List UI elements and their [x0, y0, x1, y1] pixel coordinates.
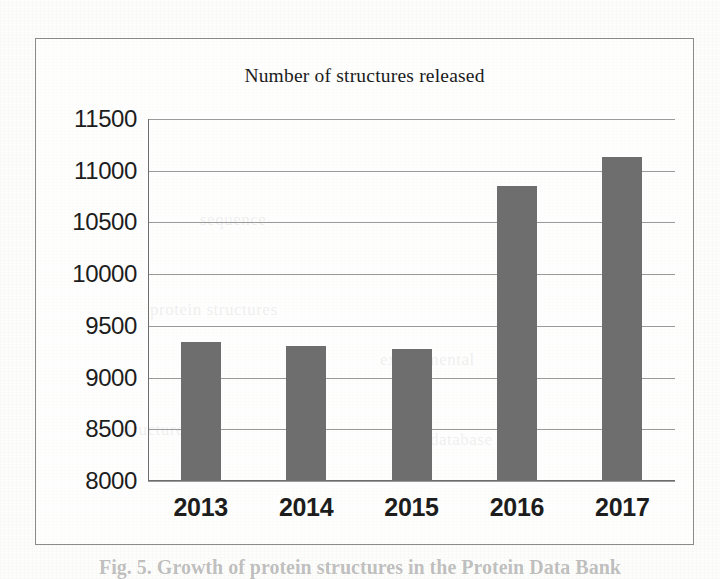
chart-frame: Number of structures released 1150011000… — [35, 38, 694, 545]
bar — [392, 349, 432, 481]
gridline — [148, 274, 675, 275]
gridline — [148, 326, 675, 327]
x-axis-tick-label: 2014 — [279, 493, 333, 522]
y-axis-tick-label: 8000 — [85, 467, 137, 495]
bar — [602, 157, 642, 481]
y-axis-tick-label: 10000 — [72, 260, 137, 288]
figure-page: sequenceprotein structuresexperimentalst… — [0, 0, 720, 579]
gridline — [148, 119, 675, 120]
y-axis-tick-label: 8500 — [85, 415, 137, 443]
gridline — [148, 171, 675, 172]
figure-caption: Fig. 5. Growth of protein structures in … — [0, 556, 720, 579]
y-axis-tick-label: 9500 — [85, 312, 137, 340]
y-axis-tick-label: 11500 — [74, 105, 137, 133]
chart-title: Number of structures released — [36, 65, 693, 87]
x-axis-tick-label: 2013 — [173, 493, 227, 522]
x-axis-tick-label: 2015 — [384, 493, 438, 522]
x-axis-tick-label: 2016 — [490, 493, 544, 522]
gridline — [148, 222, 675, 223]
plot-area: 115001100010500100009500900085008000 201… — [148, 119, 675, 481]
bar — [497, 186, 537, 481]
y-axis-line — [148, 119, 149, 481]
bar — [286, 346, 326, 481]
bar — [181, 342, 221, 481]
y-axis-tick-label: 9000 — [85, 364, 137, 392]
gridline — [148, 481, 675, 482]
x-axis-tick-label: 2017 — [595, 493, 649, 522]
y-axis-tick-label: 11000 — [74, 157, 137, 185]
y-axis-tick-label: 10500 — [72, 208, 137, 236]
